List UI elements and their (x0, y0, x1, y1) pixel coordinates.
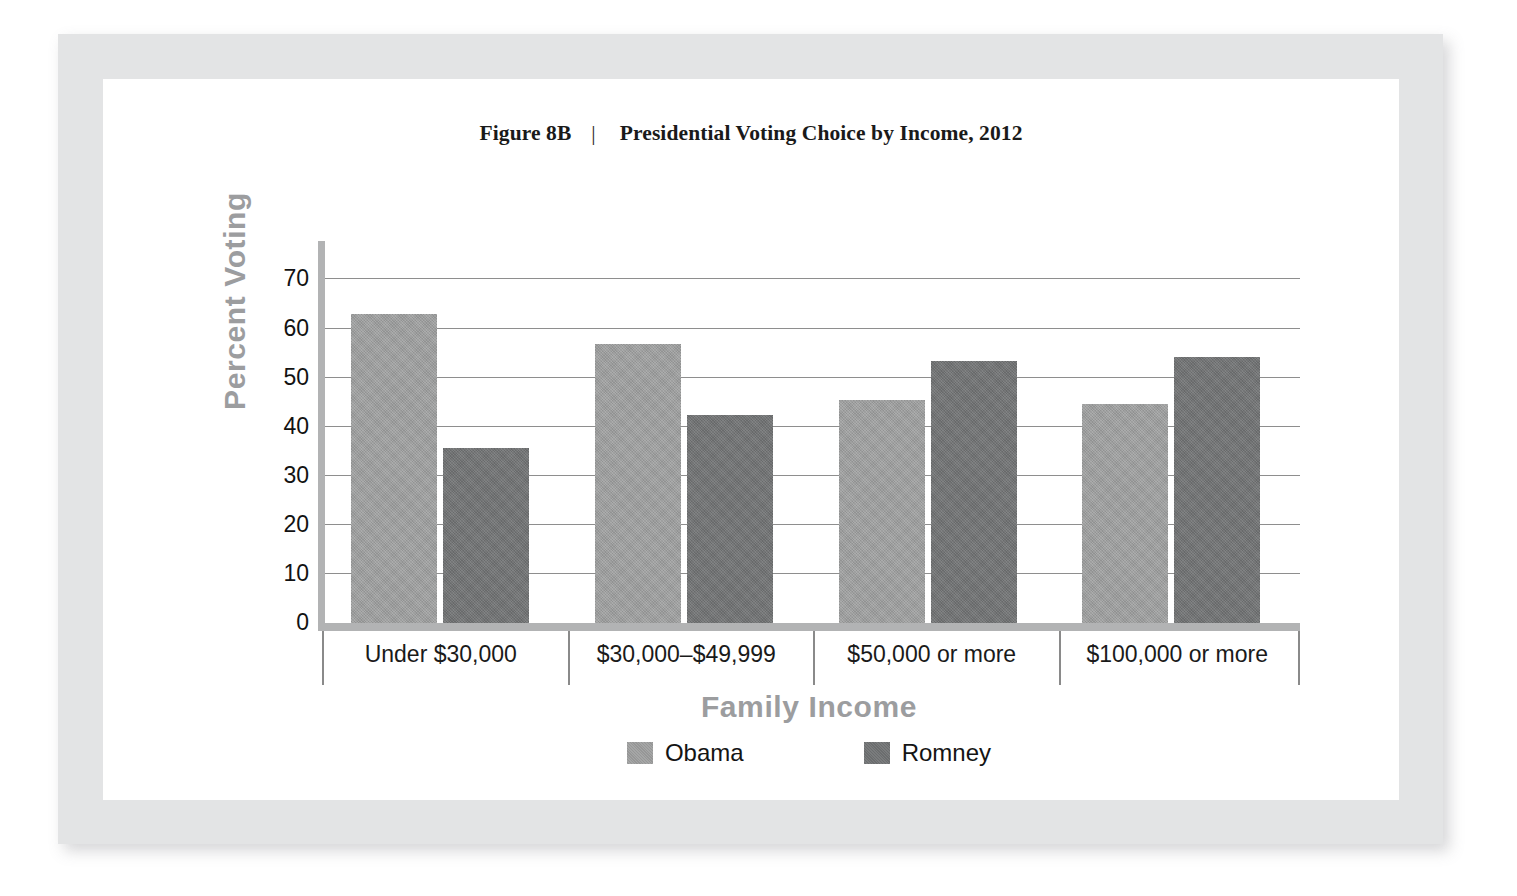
bar-obama-1 (351, 314, 437, 623)
legend-entry-romney[interactable]: Romney (864, 739, 991, 767)
y-axis-title: Percent Voting (218, 141, 252, 461)
bar-romney-2 (687, 415, 773, 623)
bar-obama-2 (595, 344, 681, 623)
bar-romney-1 (443, 448, 529, 623)
y-axis-tick-label: 20 (263, 513, 309, 536)
bar-group (325, 250, 569, 623)
legend-entry-obama[interactable]: Obama (627, 739, 744, 767)
bar-group (569, 250, 813, 623)
chart-legend: ObamaRomney (318, 739, 1300, 767)
legend-label: Romney (902, 739, 991, 767)
bar-obama-4 (1082, 404, 1168, 623)
bar-group (813, 250, 1057, 623)
legend-swatch-icon (627, 742, 653, 764)
category-label: $100,000 or more (1055, 641, 1301, 668)
bar-romney-3 (931, 361, 1017, 623)
bar-chart: Percent Voting 010203040506070 Under $30… (103, 79, 1400, 800)
figure-frame: Figure 8B|Presidential Voting Choice by … (58, 34, 1443, 844)
bar-group (1056, 250, 1300, 623)
bar-romney-4 (1174, 357, 1260, 623)
y-axis-tick-label: 10 (263, 562, 309, 585)
y-axis-tick-labels: 010203040506070 (253, 250, 309, 623)
category-label: Under $30,000 (318, 641, 564, 668)
y-axis-tick-label: 50 (263, 366, 309, 389)
y-axis-line (318, 241, 325, 623)
y-axis-tick-label: 70 (263, 267, 309, 290)
category-label: $30,000–$49,999 (564, 641, 810, 668)
y-axis-tick-label: 60 (263, 317, 309, 340)
plot-area (325, 250, 1300, 623)
bar-obama-3 (839, 400, 925, 623)
y-axis-tick-label: 0 (263, 611, 309, 634)
y-axis-tick-label: 40 (263, 415, 309, 438)
x-axis-title: Family Income (318, 690, 1300, 724)
legend-label: Obama (665, 739, 744, 767)
x-axis-categories: Under $30,000$30,000–$49,999$50,000 or m… (318, 631, 1300, 685)
legend-swatch-icon (864, 742, 890, 764)
figure-canvas: Figure 8B|Presidential Voting Choice by … (103, 79, 1399, 800)
category-label: $50,000 or more (809, 641, 1055, 668)
x-axis-line (318, 623, 1300, 631)
y-axis-tick-label: 30 (263, 464, 309, 487)
